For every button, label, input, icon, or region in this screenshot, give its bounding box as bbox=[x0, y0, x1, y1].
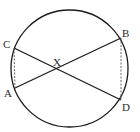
chord-ab bbox=[15, 38, 121, 88]
label-d: D bbox=[122, 101, 130, 113]
label-b: B bbox=[122, 27, 129, 39]
label-a: A bbox=[4, 87, 12, 99]
dashed-segment-ca bbox=[14, 48, 15, 88]
chord-cd bbox=[14, 48, 121, 100]
circle-chords-diagram: C A B D X bbox=[0, 0, 140, 132]
label-x: X bbox=[53, 56, 61, 68]
label-c: C bbox=[3, 38, 10, 50]
circle bbox=[11, 10, 128, 127]
